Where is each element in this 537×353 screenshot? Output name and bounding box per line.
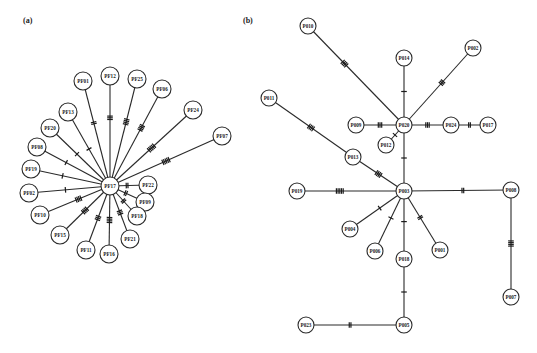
node-PF10: PF10 — [31, 206, 49, 224]
node-label: PF13 — [62, 109, 74, 115]
edge-P003-P008 — [404, 190, 511, 191]
edge-P020-P002 — [404, 48, 473, 125]
node-P013: P013 — [345, 149, 361, 165]
node-P020: P020 — [396, 117, 412, 133]
mutation-tick — [91, 121, 96, 122]
mutation-tick — [123, 124, 128, 125]
mutation-tick — [62, 173, 63, 178]
node-label: PF21 — [124, 236, 136, 242]
node-label: PF24 — [187, 107, 199, 113]
node-P018: P018 — [396, 251, 412, 267]
node-PF08: PF08 — [28, 138, 46, 156]
edge-P003-P001 — [404, 191, 440, 250]
node-PF18: PF18 — [128, 207, 146, 225]
edge-PF17-PF19 — [31, 169, 110, 186]
node-P005: P005 — [396, 317, 412, 333]
mutation-tick — [123, 122, 128, 123]
node-PF24: PF24 — [184, 101, 202, 119]
node-label: PF25 — [131, 76, 143, 82]
node-label: PF09 — [139, 199, 151, 205]
node-label: P008 — [506, 187, 517, 193]
node-label: P007 — [506, 294, 517, 300]
node-label: P010 — [303, 23, 314, 29]
node-PF06: PF06 — [153, 80, 171, 98]
node-label: P023 — [301, 322, 312, 328]
node-label: P024 — [446, 122, 457, 128]
haplotype-network-diagram: PF17PF01PF12PF25PF06PF24PF07PF13PF20PF08… — [0, 0, 537, 353]
edge-PF17-PF02 — [29, 186, 110, 193]
mutation-tick — [124, 120, 129, 121]
edge-PF17-PF10 — [40, 186, 110, 215]
edge-P003-P013 — [353, 157, 404, 191]
node-PF17: PF17 — [101, 177, 119, 195]
edges — [269, 26, 514, 328]
mutation-tick — [91, 123, 96, 124]
node-PF20: PF20 — [41, 119, 59, 137]
edge-PF17-PF25 — [110, 79, 137, 186]
mutation-tick — [124, 119, 129, 120]
node-PF11: PF11 — [77, 241, 95, 259]
node-P007: P007 — [503, 289, 519, 305]
node-P006: P006 — [367, 243, 383, 259]
node-label: P003 — [399, 188, 410, 194]
node-label: P012 — [381, 142, 392, 148]
mutation-tick — [378, 206, 381, 211]
node-P004: P004 — [342, 221, 358, 237]
node-P009: P009 — [348, 117, 364, 133]
node-PF12: PF12 — [101, 67, 119, 85]
node-label: PF07 — [216, 133, 228, 139]
node-label: PF19 — [25, 166, 37, 172]
edge-PF17-PF16 — [109, 186, 110, 254]
node-label: P019 — [292, 188, 303, 194]
edge-P020-P010 — [308, 26, 404, 125]
node-PF21: PF21 — [121, 230, 139, 248]
node-label: P013 — [348, 154, 359, 160]
node-label: PF12 — [104, 73, 116, 79]
node-label: P014 — [399, 55, 410, 61]
edge-P003-P004 — [350, 191, 404, 229]
node-label: PF01 — [77, 78, 89, 84]
edge-PF17-PF20 — [50, 128, 110, 186]
node-PF01: PF01 — [74, 72, 92, 90]
panel-a: PF17PF01PF12PF25PF06PF24PF07PF13PF20PF08… — [20, 67, 231, 263]
node-P017: P017 — [480, 117, 496, 133]
edge-P003-P006 — [375, 191, 404, 251]
edge-PF17-PF15 — [60, 186, 110, 235]
node-label: P002 — [468, 45, 479, 51]
node-PF25: PF25 — [128, 70, 146, 88]
node-label: PF22 — [142, 182, 154, 188]
node-label: P018 — [399, 256, 410, 262]
node-PF13: PF13 — [59, 103, 77, 121]
node-label: P001 — [435, 247, 446, 253]
node-label: P004 — [345, 226, 356, 232]
node-label: P005 — [399, 322, 410, 328]
node-P012: P012 — [378, 137, 394, 153]
node-label: P020 — [399, 122, 410, 128]
node-P023: P023 — [298, 317, 314, 333]
node-label: P017 — [483, 122, 494, 128]
node-label: PF16 — [103, 251, 115, 257]
panel-b: P020P003P010P014P002P011P009P024P017P012… — [261, 18, 519, 333]
node-label: P011 — [264, 95, 275, 101]
node-P011: P011 — [261, 90, 277, 106]
node-P002: P002 — [465, 40, 481, 56]
node-PF07: PF07 — [213, 127, 231, 145]
node-P014: P014 — [396, 50, 412, 66]
node-label: P009 — [351, 122, 362, 128]
node-label: PF06 — [156, 86, 168, 92]
node-P024: P024 — [443, 117, 459, 133]
node-PF02: PF02 — [20, 184, 38, 202]
edge-PF17-PF01 — [83, 81, 110, 186]
node-PF15: PF15 — [51, 226, 69, 244]
node-label: PF20 — [44, 125, 56, 131]
edge-P013-P011 — [269, 98, 353, 157]
node-P010: P010 — [300, 18, 316, 34]
node-P019: P019 — [289, 183, 305, 199]
node-label: P006 — [370, 248, 381, 254]
node-label: PF17 — [104, 183, 116, 189]
node-label: PF11 — [80, 247, 92, 253]
node-PF19: PF19 — [22, 160, 40, 178]
node-label: PF15 — [54, 232, 66, 238]
edge-PF17-PF06 — [110, 89, 162, 186]
node-PF22: PF22 — [139, 176, 157, 194]
